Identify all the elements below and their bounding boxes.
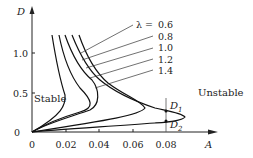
x-tick-label: 0.02 [55,139,76,150]
y-axis-arrow-icon [30,6,35,14]
legend-entry: 0.6 [158,19,173,30]
x-tick-label: 0.08 [155,139,176,150]
legend-leaders [81,25,153,88]
unstable-region-label: Unstable [198,87,244,98]
x-axis-arrow-icon [208,130,218,135]
legend-entry: 1.2 [158,54,173,65]
x-tick-label: 0 [29,139,35,150]
legend-entry: 1.0 [158,42,173,53]
y-tick-label: 1.0 [13,48,28,59]
x-tick-label: 0.04 [88,139,109,150]
y-tick-label: 0 [14,127,20,138]
curve-lambda-1.4 [32,35,145,132]
legend-entry: 1.4 [158,65,173,76]
x-axis-label: A [204,139,212,150]
x-tick-label: 0.06 [122,139,143,150]
y-tick-label: 0.5 [13,88,28,99]
legend-entry: 0.8 [158,31,173,42]
y-axis-label: D [16,6,25,17]
stability-chart: 0 0.02 0.04 0.06 0.08 0 0.5 1.0 D A D1 D… [0,0,253,158]
d2-label: D2 [169,119,183,133]
stable-region-label: Stable [34,93,66,104]
legend-title: λ = [136,19,153,30]
curve-lambda-0.6 [32,35,65,132]
d2-marker [165,120,168,123]
d1-marker [165,110,168,113]
